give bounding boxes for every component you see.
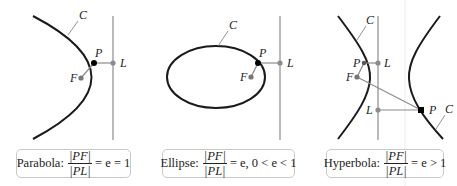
ellipse-label-f: F [239,70,248,84]
hyperbola-point-p-lower [418,107,424,113]
parabola-point-f [78,75,83,80]
hyperbola-right-c-leader [436,115,445,129]
parabola-point-p [91,60,97,66]
ellipse-caption-name: Ellipse: [161,156,199,171]
parabola-label-f: F [69,71,78,85]
ellipse-label-c: C [229,18,238,32]
hyperbola-caption-denominator: |PL| [384,164,407,177]
hyperbola-point-f [354,74,359,79]
parabola-label-c: C [79,8,88,22]
parabola-caption-fraction: |PF| |PL| [68,150,92,177]
ellipse-caption-fraction: |PF| |PL| [203,150,227,177]
parabola-label-p: P [94,46,103,60]
hyperbola-left-branch [338,16,370,139]
hyperbola-caption-numerator: |PF| [384,150,408,164]
ellipse-caption-relation: = e, 0 < e < 1 [230,156,297,171]
hyperbola-label-l-lower: L [365,103,373,117]
parabola-label-l: L [119,56,127,70]
ellipse-label-l: L [286,56,294,70]
hyperbola-label-c-left: C [366,13,375,27]
hyperbola-label-l-upper: L [383,56,391,70]
parabola-point-l [110,60,115,65]
hyperbola-label-p-lower: P [428,103,437,117]
ellipse-point-l [277,60,282,65]
ellipse-caption-denominator: |PL| [203,164,226,177]
ellipse-figure: C P F L [167,16,294,140]
hyperbola-point-p-upper [362,61,366,65]
hyperbola-label-f: F [345,70,354,84]
hyperbola-caption-relation: = e > 1 [411,156,446,171]
hyperbola-caption: Hyperbola: |PF| |PL| = e > 1 [326,149,444,178]
hyperbola-point-l-lower [375,107,380,112]
hyperbola-point-l-upper [375,60,380,65]
ellipse-point-f [248,74,253,79]
ellipse-caption: Ellipse: |PF| |PL| = e, 0 < e < 1 [162,149,295,178]
hyperbola-label-p-upper: P [352,56,361,70]
hyperbola-left-c-leader [357,26,366,40]
ellipse-point-p [255,60,261,66]
ellipse-c-leader [218,31,228,46]
parabola-caption-name: Parabola: [17,156,64,171]
hyperbola-caption-fraction: |PF| |PL| [384,150,408,177]
parabola-caption-numerator: |PF| [68,150,92,164]
ellipse-caption-numerator: |PF| [203,150,227,164]
hyperbola-label-c-right: C [445,102,454,116]
parabola-caption-denominator: |PL| [68,164,91,177]
ellipse-label-p: P [258,46,267,60]
hyperbola-caption-name: Hyperbola: [324,156,380,171]
parabola-figure: C P F L [33,8,127,140]
parabola-c-leader [68,21,78,35]
hyperbola-right-branch [409,16,443,139]
parabola-caption: Parabola: |PF| |PL| = e = 1 [16,149,131,178]
parabola-caption-relation: = e = 1 [95,156,130,171]
hyperbola-figure: C P F L L P C [338,13,454,140]
